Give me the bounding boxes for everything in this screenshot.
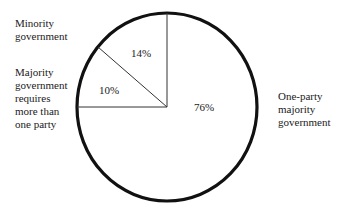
- category-label-coalition: Majority government requires more than o…: [15, 66, 68, 131]
- slice-label-coalition: 10%: [99, 84, 119, 97]
- pie-chart: 14% 10% 76% Minority government Majority…: [0, 0, 346, 214]
- slice-label-minority: 14%: [131, 47, 151, 60]
- slice-label-one-party: 76%: [194, 101, 214, 114]
- category-label-minority: Minority government: [15, 17, 68, 43]
- category-label-one-party: One-party majority government: [278, 90, 331, 129]
